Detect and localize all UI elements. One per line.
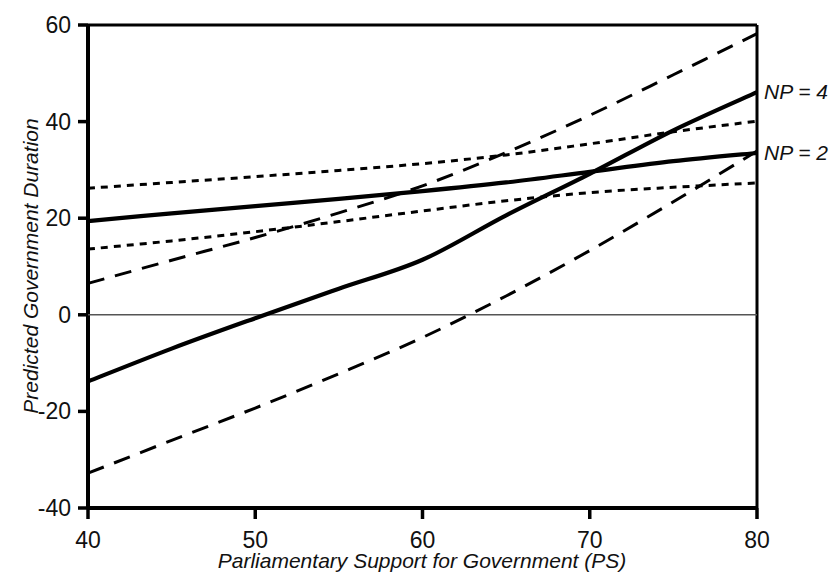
predicted-government-duration-chart: -40-200204060 4050607080 Predicted Gover… xyxy=(0,0,839,581)
y-tick-label-40: 40 xyxy=(45,109,71,135)
x-axis-title: Parliamentary Support for Government (PS… xyxy=(218,549,627,572)
y-tick-label--40: -40 xyxy=(38,495,71,521)
x-tick-label-80: 80 xyxy=(744,527,770,553)
y-tick-label-0: 0 xyxy=(58,302,71,328)
series-label-np2: NP = 2 xyxy=(764,141,828,164)
x-tick-label-40: 40 xyxy=(75,527,101,553)
y-tick-label--20: -20 xyxy=(38,398,71,424)
y-tick-label-60: 60 xyxy=(45,12,71,38)
series-label-np4: NP = 4 xyxy=(764,80,828,103)
chart-background xyxy=(0,0,839,581)
y-axis-title: Predicted Government Duration xyxy=(19,118,42,413)
chart-figure: -40-200204060 4050607080 Predicted Gover… xyxy=(0,0,839,581)
y-tick-label-20: 20 xyxy=(45,205,71,231)
